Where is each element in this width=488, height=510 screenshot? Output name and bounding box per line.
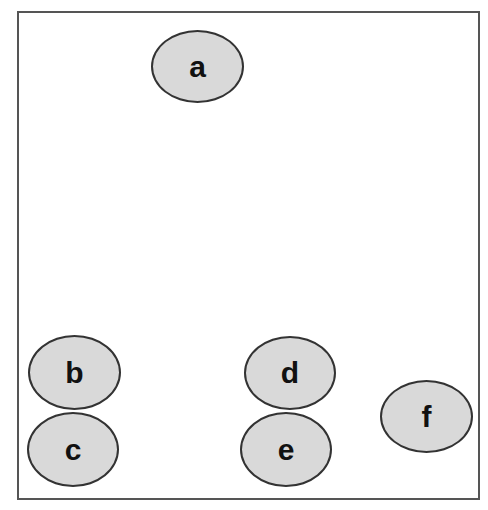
node-f: f bbox=[380, 380, 473, 453]
node-b: b bbox=[28, 335, 121, 410]
node-b-label: b bbox=[65, 356, 83, 390]
node-a: a bbox=[151, 30, 244, 103]
node-e-label: e bbox=[278, 433, 295, 467]
node-f-label: f bbox=[422, 400, 432, 434]
node-e: e bbox=[240, 412, 332, 487]
node-d: d bbox=[244, 336, 336, 410]
node-c: c bbox=[27, 412, 119, 487]
node-d-label: d bbox=[281, 356, 299, 390]
node-c-label: c bbox=[65, 433, 82, 467]
node-a-label: a bbox=[189, 50, 206, 84]
